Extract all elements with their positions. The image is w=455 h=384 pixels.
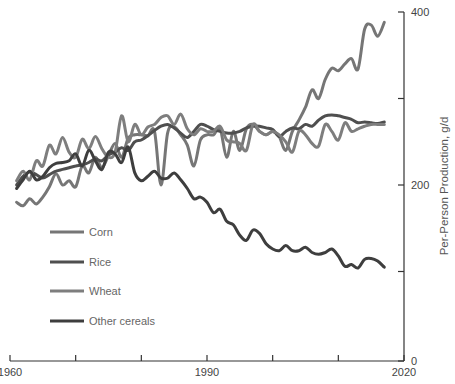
x-tick-label: 1990 bbox=[195, 366, 219, 378]
x-tick-label: 1960 bbox=[0, 366, 22, 378]
y-axis-title: Per-Person Production, g/d bbox=[438, 117, 450, 256]
y-tick-label: 200 bbox=[411, 179, 429, 191]
legend-label-corn: Corn bbox=[89, 226, 113, 238]
legend-item-corn: Corn bbox=[50, 226, 113, 238]
legend: Corn Rice Wheat Other cereals bbox=[50, 226, 156, 327]
legend-label-rice: Rice bbox=[89, 256, 111, 268]
legend-item-wheat: Wheat bbox=[50, 285, 121, 297]
x-tick-label: 2020 bbox=[392, 366, 416, 378]
line-chart: 196019902020 0200400 Per-Person Producti… bbox=[0, 0, 455, 384]
y-tick-label: 0 bbox=[411, 355, 417, 367]
y-tick-label: 400 bbox=[411, 6, 429, 18]
legend-label-wheat: Wheat bbox=[89, 285, 121, 297]
legend-item-other-cereals: Other cereals bbox=[50, 315, 156, 327]
x-axis: 196019902020 bbox=[0, 355, 416, 378]
legend-item-rice: Rice bbox=[50, 256, 111, 268]
x-ticks: 196019902020 bbox=[0, 355, 416, 378]
series-other-cereals bbox=[17, 147, 385, 268]
legend-label-other-cereals: Other cereals bbox=[89, 315, 156, 327]
y-axis: 0200400 Per-Person Production, g/d bbox=[398, 6, 450, 367]
y-ticks: 0200400 bbox=[398, 6, 429, 367]
